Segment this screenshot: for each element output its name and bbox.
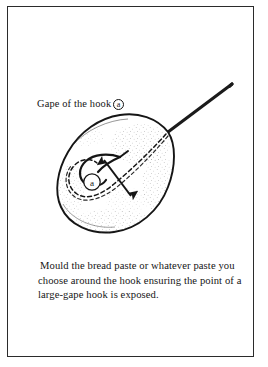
caption-line-3: large-gape hook is exposed.	[38, 288, 243, 303]
bait-body-icon	[57, 114, 176, 235]
gape-callout-label: Gape of the hooka	[37, 97, 124, 110]
illustration-frame: a Gape of the hooka Mould the bread past…	[7, 6, 254, 357]
inline-marker-a: a	[84, 174, 100, 190]
page-canvas: a Gape of the hooka Mould the bread past…	[0, 0, 268, 367]
bait-hook-illustration: a	[16, 14, 261, 259]
gape-callout-marker: a	[113, 99, 124, 110]
caption-block: Mould the bread paste or whatever paste …	[38, 259, 243, 303]
caption-line-1: Mould the bread paste or whatever paste …	[38, 259, 243, 274]
caption-line-2: choose around the hook ensuring the poin…	[38, 274, 243, 289]
hook-shank-icon	[168, 84, 232, 132]
gape-callout-text: Gape of the hook	[37, 98, 111, 109]
inline-marker-letter: a	[90, 178, 94, 188]
